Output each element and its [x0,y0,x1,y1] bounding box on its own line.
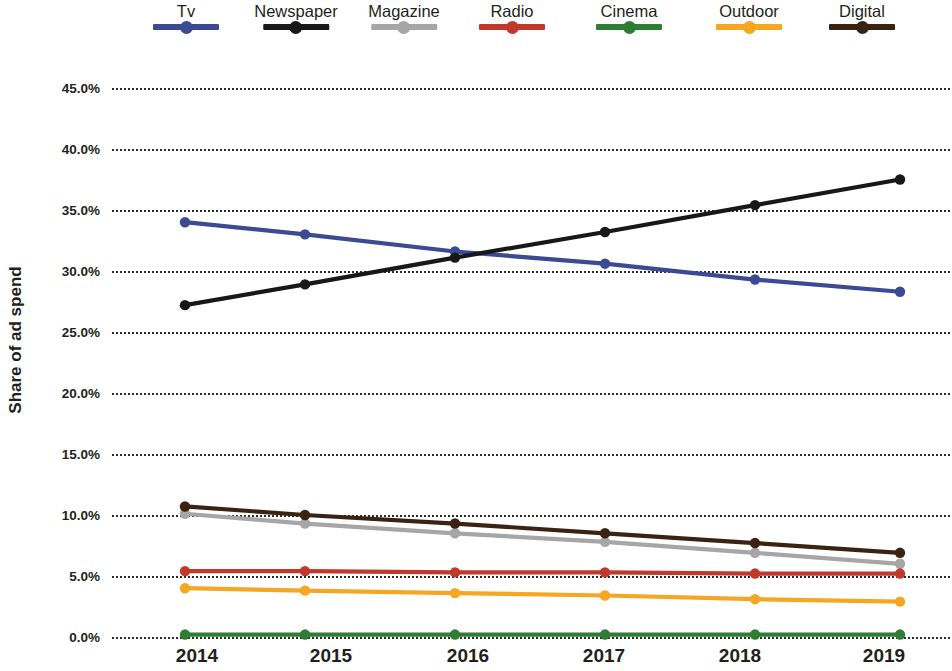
data-point-marker [600,528,610,538]
gridline [112,271,950,273]
gridline [112,515,950,517]
data-point-marker [600,258,610,268]
series-tv [180,217,905,297]
data-point-marker [600,537,610,547]
y-axis-tick: 10.0% [34,508,100,523]
data-point-marker [450,246,460,256]
data-point-marker [750,200,760,210]
data-point-marker [450,588,460,598]
y-axis-tick: 25.0% [34,325,100,340]
series-line [185,506,900,552]
data-point-marker [180,501,190,511]
gridline [112,454,950,456]
series-newspaper [180,174,905,310]
gridline [112,88,950,90]
chart-plot-area: Share of ad spend 0.0%5.0%10.0%15.0%20.0… [0,0,952,671]
data-point-marker [750,274,760,284]
x-axis-tick-labels: 201420152016201720182019 [0,645,952,671]
data-point-marker [895,174,905,184]
x-axis-tick: 2018 [719,645,761,667]
series-line [185,180,900,306]
data-point-marker [300,585,310,595]
series-outdoor [180,583,905,607]
y-axis-tick: 20.0% [34,386,100,401]
data-point-marker [895,287,905,297]
data-point-marker [300,566,310,576]
data-point-marker [180,566,190,576]
data-point-marker [180,509,190,519]
gridline [112,332,950,334]
data-point-marker [180,583,190,593]
x-axis-tick: 2016 [447,645,489,667]
y-axis-tick: 35.0% [34,203,100,218]
data-point-marker [750,538,760,548]
data-point-marker [450,528,460,538]
gridline [112,576,950,578]
series-magazine [180,509,905,569]
data-point-marker [895,548,905,558]
data-point-marker [600,590,610,600]
data-point-marker [750,548,760,558]
y-axis-tick: 45.0% [34,81,100,96]
series-line [185,222,900,292]
data-point-marker [300,518,310,528]
data-point-marker [895,596,905,606]
data-point-marker [895,559,905,569]
data-point-marker [180,217,190,227]
gridline [112,149,950,151]
gridline [112,210,950,212]
data-point-marker [450,252,460,262]
series-digital [180,501,905,558]
data-point-marker [300,229,310,239]
x-axis-tick: 2019 [863,645,905,667]
y-axis-title: Share of ad spend [6,240,26,440]
x-axis-tick: 2015 [310,645,352,667]
x-axis-tick: 2017 [583,645,625,667]
y-axis-tick: 0.0% [34,630,100,645]
gridline [112,393,950,395]
data-point-marker [600,227,610,237]
series-line [185,514,900,564]
series-line [185,571,900,573]
series-line [185,588,900,601]
y-axis-tick: 5.0% [34,569,100,584]
y-axis-tick: 30.0% [34,264,100,279]
data-point-marker [450,518,460,528]
series-lines [0,0,952,671]
data-point-marker [300,279,310,289]
y-axis-tick: 40.0% [34,142,100,157]
x-axis-tick: 2014 [176,645,218,667]
gridline [112,637,950,639]
y-axis-tick: 15.0% [34,447,100,462]
data-point-marker [180,300,190,310]
data-point-marker [750,594,760,604]
